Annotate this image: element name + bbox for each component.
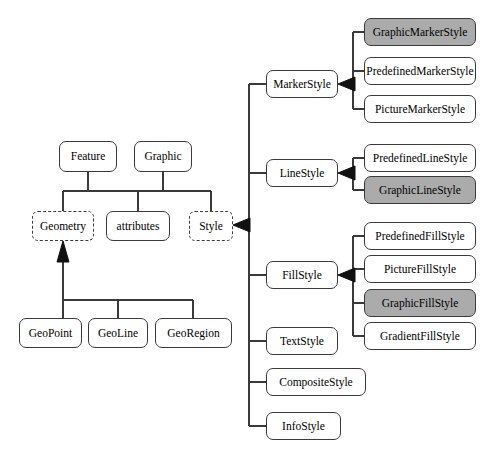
class-node-feature[interactable]: Feature xyxy=(59,141,117,172)
class-node-label: MarkerStyle xyxy=(273,78,330,91)
class-node-geopoint[interactable]: GeoPoint xyxy=(19,318,82,348)
class-node-label: GraphicFillStyle xyxy=(382,297,459,310)
class-node-predefinedfillstyle[interactable]: PredefinedFillStyle xyxy=(364,222,476,250)
class-node-label: GeoPoint xyxy=(29,327,72,340)
class-node-infostyle[interactable]: InfoStyle xyxy=(266,412,341,440)
class-node-compositestyle[interactable]: CompositeStyle xyxy=(266,368,366,396)
arrowhead-fillstyle xyxy=(338,268,355,282)
class-node-label: Feature xyxy=(71,150,105,163)
class-node-linestyle[interactable]: LineStyle xyxy=(266,159,338,187)
class-node-label: GraphicLineStyle xyxy=(379,184,461,197)
class-node-label: InfoStyle xyxy=(282,420,325,433)
class-node-label: Geometry xyxy=(40,220,86,233)
class-node-markerstyle[interactable]: MarkerStyle xyxy=(266,70,338,98)
class-node-label: PictureMarkerStyle xyxy=(375,103,465,116)
class-node-label: PredefinedFillStyle xyxy=(375,230,464,243)
class-node-label: GeoRegion xyxy=(167,327,219,340)
class-node-label: PredefinedLineStyle xyxy=(373,152,468,165)
class-node-graphic[interactable]: Graphic xyxy=(134,141,192,172)
class-node-attributes[interactable]: attributes xyxy=(106,211,170,241)
class-node-label: PictureFillStyle xyxy=(384,263,456,276)
class-node-geometry[interactable]: Geometry xyxy=(32,211,94,241)
class-node-label: attributes xyxy=(117,220,160,233)
class-node-predefinedmarkerstyle[interactable]: PredefinedMarkerStyle xyxy=(364,57,476,85)
class-node-label: FillStyle xyxy=(282,269,322,282)
arrowhead-style xyxy=(233,218,250,232)
class-node-textstyle[interactable]: TextStyle xyxy=(266,327,338,355)
class-node-picturefillstyle[interactable]: PictureFillStyle xyxy=(364,255,476,283)
class-node-label: Graphic xyxy=(144,150,181,163)
class-diagram-canvas: FeatureGraphicGeometryattributesStyleGeo… xyxy=(0,0,499,465)
class-node-style[interactable]: Style xyxy=(189,211,233,241)
class-node-geoline[interactable]: GeoLine xyxy=(88,318,148,348)
arrowhead-linestyle xyxy=(338,166,355,180)
arrowhead-markerstyle xyxy=(338,77,355,91)
class-node-label: CompositeStyle xyxy=(279,376,352,389)
class-node-gradientfillstyle[interactable]: GradientFillStyle xyxy=(364,322,476,350)
class-node-graphicmarkerstyle[interactable]: GraphicMarkerStyle xyxy=(364,18,476,46)
class-node-label: LineStyle xyxy=(280,167,325,180)
class-node-label: GeoLine xyxy=(98,327,138,340)
class-node-georegion[interactable]: GeoRegion xyxy=(155,318,232,348)
class-node-label: GradientFillStyle xyxy=(380,330,460,343)
class-node-label: TextStyle xyxy=(280,335,324,348)
class-node-graphiclinestyle[interactable]: GraphicLineStyle xyxy=(364,176,476,204)
class-node-label: GraphicMarkerStyle xyxy=(373,26,468,39)
class-node-label: Style xyxy=(199,220,223,233)
class-node-graphicfillstyle[interactable]: GraphicFillStyle xyxy=(364,289,476,317)
class-node-fillstyle[interactable]: FillStyle xyxy=(266,261,338,289)
class-node-label: PredefinedMarkerStyle xyxy=(366,65,473,78)
class-node-picturemarkerstyle[interactable]: PictureMarkerStyle xyxy=(364,95,476,123)
class-node-predefinedlinestyle[interactable]: PredefinedLineStyle xyxy=(364,144,476,172)
arrowhead-geometry xyxy=(57,241,69,262)
